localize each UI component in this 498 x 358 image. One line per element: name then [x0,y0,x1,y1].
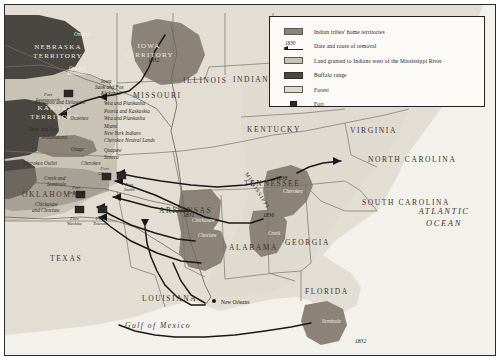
swatch-fort-icon [290,101,297,107]
swatch-forest-icon [284,86,303,93]
legend-label-fort: Fort [314,101,324,107]
legend-label-granted: Land granted to Indians west of the Miss… [314,58,442,64]
map-legend: Indian tribes' home territories 1830 Dat… [269,16,485,107]
city-dot-new-orleans [212,299,216,303]
route-arrow-icon: 1830 [284,40,303,53]
legend-row-granted: Land granted to Indians west of the Miss… [284,54,484,67]
legend-row-territories: Indian tribes' home territories [284,25,484,38]
swatch-buffalo-icon [284,72,303,79]
legend-row-buffalo: Buffalo range [284,69,484,82]
legend-route-date: 1830 [285,40,295,46]
legend-label-forest: Forest [314,87,329,93]
map-frame: NEBRASKATERRITORYKANSASTERRITORYIOWATERR… [4,4,496,356]
legend-row-forest: Forest [284,83,484,96]
legend-label-territories: Indian tribes' home territories [314,29,385,35]
legend-label-buffalo: Buffalo range [314,72,347,78]
legend-row-fort: Fort [284,98,484,111]
swatch-granted-icon [284,57,303,64]
route-arrowhead [283,46,288,50]
legend-label-route: Date and route of removal [314,43,376,49]
map-screenshot: NEBRASKATERRITORYKANSASTERRITORYIOWATERR… [0,0,498,358]
swatch-territories-icon [284,28,303,35]
legend-row-route: 1830 Date and route of removal [284,40,484,53]
